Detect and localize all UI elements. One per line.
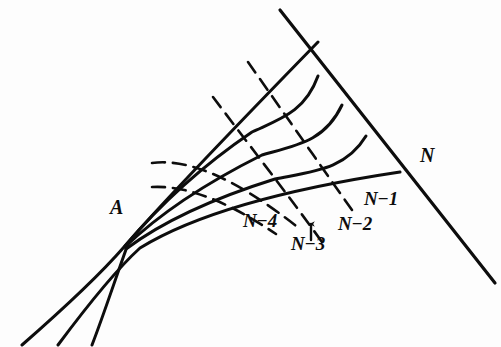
label-wavefront-n-2: N−2 (338, 214, 372, 233)
label-ray-line-n: N (420, 145, 434, 165)
label-cusp-point-a: A (110, 197, 123, 217)
label-wavefront-n-1: N−1 (364, 189, 398, 208)
diagram-canvas (0, 0, 501, 347)
wavefront-solid-N-3 (126, 136, 366, 249)
caustic-diagram: A N N−1 N−2 N−3 N−4 (0, 0, 501, 347)
caustic-branch-upper (22, 42, 318, 345)
label-wavefront-n-4: N−4 (243, 211, 277, 230)
label-wavefront-n-3: N−3 (291, 234, 325, 253)
